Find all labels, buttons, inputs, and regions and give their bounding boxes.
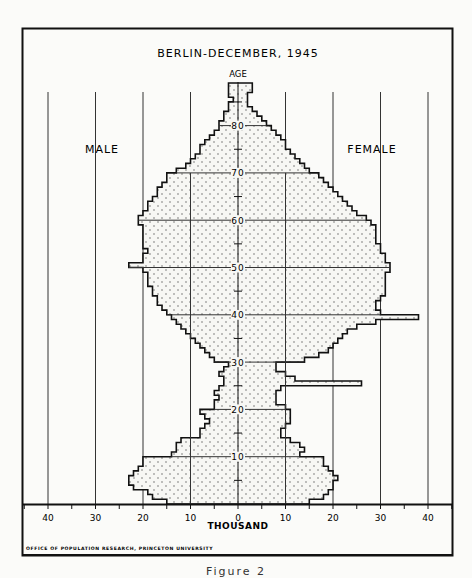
chart-title: BERLIN-DECEMBER, 1945 <box>157 47 318 60</box>
female-label: FEMALE <box>347 143 396 156</box>
svg-text:20: 20 <box>327 513 339 523</box>
svg-text:60: 60 <box>231 216 244 226</box>
svg-text:20: 20 <box>137 513 149 523</box>
population-pyramid-chart: 102030405060708040302010010203040 BERLIN… <box>0 0 472 578</box>
svg-text:20: 20 <box>231 405 244 415</box>
source-note: OFFICE OF POPULATION RESEARCH, PRINCETON… <box>26 546 213 551</box>
svg-text:10: 10 <box>185 513 197 523</box>
svg-text:40: 40 <box>42 513 54 523</box>
figure-caption: Figure 2 <box>0 565 472 578</box>
svg-text:40: 40 <box>422 513 434 523</box>
svg-text:30: 30 <box>375 513 387 523</box>
svg-text:50: 50 <box>231 263 244 273</box>
x-axis-label: THOUSAND <box>207 521 268 531</box>
y-axis-label: AGE <box>229 69 247 79</box>
svg-text:70: 70 <box>231 168 244 178</box>
svg-text:30: 30 <box>231 358 244 368</box>
svg-text:30: 30 <box>90 513 102 523</box>
svg-text:80: 80 <box>231 121 244 131</box>
svg-text:40: 40 <box>231 310 244 320</box>
svg-text:10: 10 <box>280 513 292 523</box>
male-label: MALE <box>85 143 119 156</box>
svg-text:10: 10 <box>231 452 244 462</box>
